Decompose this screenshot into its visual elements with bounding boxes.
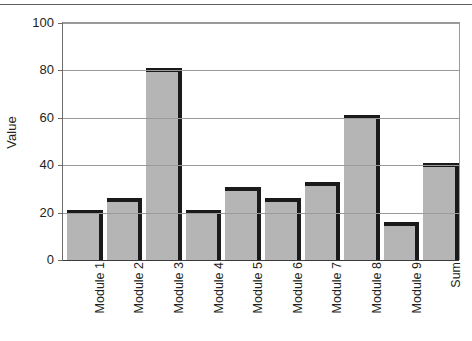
bar-depth-edge	[415, 222, 419, 260]
y-tick-label: 100	[22, 15, 54, 30]
y-tick-label: 40	[22, 157, 54, 172]
y-tick-label: 80	[22, 62, 54, 77]
bar-depth-edge	[257, 187, 261, 260]
plot-area	[62, 22, 460, 260]
bar	[146, 23, 178, 260]
gridline	[63, 165, 459, 166]
gridline	[63, 70, 459, 71]
bar-fill	[305, 182, 337, 260]
bar-chart: Value 020406080100 Module 1Module 2Modul…	[0, 0, 472, 341]
bar-top-cap	[225, 187, 257, 191]
x-tick-label: Sum	[443, 262, 457, 288]
x-tick-label: Module 2	[126, 262, 140, 313]
bar-top-cap	[305, 182, 337, 186]
x-axis-tick-labels: Module 1Module 2Module 3Module 4Module 5…	[62, 262, 458, 341]
bar-top-cap	[384, 222, 416, 226]
bar	[384, 23, 416, 260]
bar-fill	[186, 210, 218, 260]
bar-fill	[107, 198, 139, 260]
y-tick-mark	[58, 118, 63, 119]
bar-fill	[265, 198, 297, 260]
y-axis-title: Value	[4, 98, 19, 168]
bar	[265, 23, 297, 260]
gridline	[63, 213, 459, 214]
x-tick-label: Module 9	[404, 262, 418, 313]
x-axis-baseline	[63, 260, 459, 261]
y-tick-label: 60	[22, 109, 54, 124]
y-tick-label: 0	[22, 252, 54, 267]
y-axis-tick-labels: 020406080100	[22, 0, 54, 341]
bar-top-cap	[107, 198, 139, 202]
y-tick-mark	[58, 260, 63, 261]
bar-depth-edge	[297, 198, 301, 260]
bar-fill	[146, 68, 178, 260]
x-tick-label-text: Module 7	[330, 262, 344, 313]
x-tick-label-text: Module 9	[410, 262, 424, 313]
top-divider-rule	[0, 4, 472, 5]
x-tick-label: Module 8	[364, 262, 378, 313]
y-tick-mark	[58, 23, 63, 24]
bar	[344, 23, 376, 260]
y-tick-mark	[58, 70, 63, 71]
bar-depth-edge	[217, 210, 221, 260]
x-tick-label-text: Module 5	[251, 262, 265, 313]
bar-depth-edge	[178, 68, 182, 260]
bar	[423, 23, 455, 260]
bar	[186, 23, 218, 260]
gridline	[63, 23, 459, 24]
bar-fill	[344, 115, 376, 260]
x-tick-label-text: Module 8	[370, 262, 384, 313]
bar-depth-edge	[455, 163, 459, 260]
bar-series	[63, 23, 459, 260]
bar-fill	[384, 222, 416, 260]
x-tick-label: Module 3	[166, 262, 180, 313]
x-tick-label-text: Module 4	[212, 262, 226, 313]
bar	[225, 23, 257, 260]
bar-fill	[225, 187, 257, 260]
bar-depth-edge	[99, 210, 103, 260]
x-tick-label-text: Module 3	[172, 262, 186, 313]
bar	[107, 23, 139, 260]
y-tick-mark	[58, 213, 63, 214]
gridline	[63, 118, 459, 119]
x-tick-label: Module 5	[245, 262, 259, 313]
y-tick-label: 20	[22, 204, 54, 219]
bar	[67, 23, 99, 260]
x-tick-label: Module 4	[206, 262, 220, 313]
bar-depth-edge	[336, 182, 340, 260]
bar-fill	[67, 210, 99, 260]
bar	[305, 23, 337, 260]
x-tick-label: Module 7	[324, 262, 338, 313]
x-tick-label: Module 1	[87, 262, 101, 313]
y-tick-mark	[58, 165, 63, 166]
x-tick-label: Module 6	[285, 262, 299, 313]
bar-depth-edge	[138, 198, 142, 260]
x-tick-label-text: Sum	[449, 262, 463, 288]
bar-depth-edge	[376, 115, 380, 260]
x-tick-label-text: Module 6	[291, 262, 305, 313]
bar-fill	[423, 163, 455, 260]
x-tick-label-text: Module 2	[132, 262, 146, 313]
x-tick-label-text: Module 1	[93, 262, 107, 313]
bar-top-cap	[265, 198, 297, 202]
